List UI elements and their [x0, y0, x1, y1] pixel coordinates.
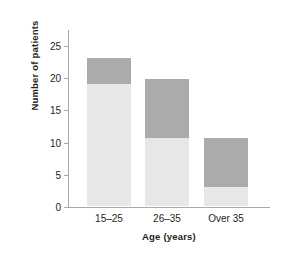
y-tick-mark — [64, 78, 68, 79]
y-tick-label: 5 — [55, 169, 61, 180]
bar-1 — [87, 58, 131, 206]
x-axis-title: Age (years) — [68, 231, 270, 242]
plot-area: 0510152025 15–2526–35Over 35 — [68, 30, 270, 207]
bar-segment-lower — [87, 84, 131, 206]
y-tick-label: 15 — [50, 105, 61, 116]
bar-2 — [145, 79, 189, 206]
y-tick-mark — [64, 143, 68, 144]
y-tick-mark — [64, 46, 68, 47]
bar-segment-upper — [204, 138, 248, 187]
y-tick-label: 25 — [50, 41, 61, 52]
y-tick-label: 0 — [55, 202, 61, 213]
x-tick-label: Over 35 — [191, 213, 261, 224]
bar-segment-upper — [145, 79, 189, 138]
y-tick-mark — [64, 175, 68, 176]
y-tick-mark — [64, 207, 68, 208]
y-axis-title: Number of patients — [29, 0, 40, 146]
chart-figure: Number of patients 0510152025 15–2526–35… — [0, 0, 294, 256]
bar-segment-lower — [204, 187, 248, 206]
bar-segment-upper — [87, 58, 131, 84]
x-axis-line — [68, 207, 270, 208]
y-axis-line — [68, 30, 69, 208]
bar-segment-lower — [145, 138, 189, 206]
y-tick-mark — [64, 110, 68, 111]
y-tick-label: 20 — [50, 73, 61, 84]
bar-3 — [204, 138, 248, 206]
y-tick-label: 10 — [50, 137, 61, 148]
